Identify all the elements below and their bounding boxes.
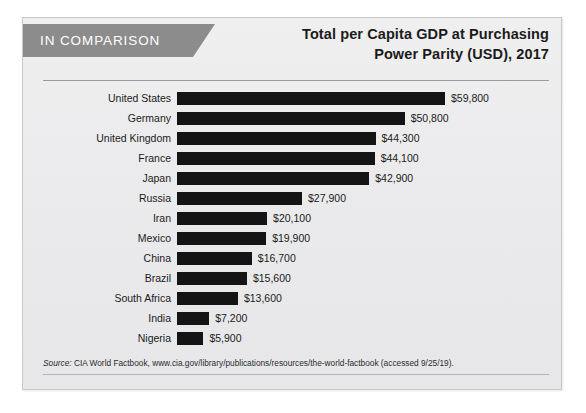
bar	[177, 112, 405, 125]
bar	[177, 292, 238, 305]
bar-value-label: $44,100	[375, 152, 419, 164]
screenshot-root: IN COMPARISON Total per Capita GDP at Pu…	[0, 0, 586, 413]
chart-row: United States$59,800	[23, 88, 563, 108]
bar-value-label: $19,900	[266, 232, 310, 244]
bar	[177, 132, 376, 145]
chart-row: Nigeria$5,900	[23, 328, 563, 348]
category-label: Nigeria	[23, 332, 177, 344]
bar-area: $42,900	[177, 168, 563, 188]
chart-row: Germany$50,800	[23, 108, 563, 128]
bar-area: $27,900	[177, 188, 563, 208]
bar	[177, 332, 203, 345]
source-note: Source: CIA World Factbook, www.cia.gov/…	[43, 358, 549, 368]
chart-row: France$44,100	[23, 148, 563, 168]
bar-value-label: $44,300	[376, 132, 420, 144]
category-label: Iran	[23, 212, 177, 224]
bar-value-label: $7,200	[209, 312, 247, 324]
bar	[177, 172, 369, 185]
bar-value-label: $15,600	[247, 272, 291, 284]
chart-row: Iran$20,100	[23, 208, 563, 228]
bar-area: $59,800	[177, 88, 563, 108]
card-footer: Source: CIA World Factbook, www.cia.gov/…	[43, 358, 549, 375]
category-label: France	[23, 152, 177, 164]
chart-title-line-2: Power Parity (USD), 2017	[229, 44, 549, 64]
category-label: Brazil	[23, 272, 177, 284]
bar	[177, 252, 252, 265]
header-divider	[43, 80, 549, 81]
chart-row: United Kingdom$44,300	[23, 128, 563, 148]
bar-area: $44,100	[177, 148, 563, 168]
bar-value-label: $50,800	[405, 112, 449, 124]
chart-row: China$16,700	[23, 248, 563, 268]
chart-row: South Africa$13,600	[23, 288, 563, 308]
chart-row: India$7,200	[23, 308, 563, 328]
chart-row: Russia$27,900	[23, 188, 563, 208]
bar-value-label: $59,800	[445, 92, 489, 104]
category-label: China	[23, 252, 177, 264]
chart-title: Total per Capita GDP at Purchasing Power…	[229, 24, 549, 64]
bar-area: $15,600	[177, 268, 563, 288]
category-label: South Africa	[23, 292, 177, 304]
bar-value-label: $20,100	[267, 212, 311, 224]
bar-value-label: $16,700	[252, 252, 296, 264]
bar-value-label: $5,900	[203, 332, 241, 344]
chart-title-line-1: Total per Capita GDP at Purchasing	[229, 24, 549, 44]
bar	[177, 312, 209, 325]
bar-value-label: $13,600	[238, 292, 282, 304]
chart-row: Brazil$15,600	[23, 268, 563, 288]
bar	[177, 272, 247, 285]
bar-area: $5,900	[177, 328, 563, 348]
bar-area: $13,600	[177, 288, 563, 308]
comparison-card: IN COMPARISON Total per Capita GDP at Pu…	[22, 17, 562, 390]
category-label: Germany	[23, 112, 177, 124]
bar-area: $44,300	[177, 128, 563, 148]
bar	[177, 92, 445, 105]
bar-area: $50,800	[177, 108, 563, 128]
category-label: India	[23, 312, 177, 324]
bar-value-label: $42,900	[369, 172, 413, 184]
category-label: Japan	[23, 172, 177, 184]
footer-divider	[43, 374, 549, 375]
source-prefix: Source:	[43, 358, 72, 368]
page-bleed-artifact	[60, 396, 480, 408]
bar	[177, 212, 267, 225]
banner-label: IN COMPARISON	[23, 33, 160, 48]
category-label: United Kingdom	[23, 132, 177, 144]
bar-area: $20,100	[177, 208, 563, 228]
chart-row: Japan$42,900	[23, 168, 563, 188]
bar-value-label: $27,900	[302, 192, 346, 204]
in-comparison-banner: IN COMPARISON	[23, 24, 215, 57]
category-label: Russia	[23, 192, 177, 204]
bar-area: $7,200	[177, 308, 563, 328]
bar	[177, 232, 266, 245]
bar-chart: United States$59,800Germany$50,800United…	[23, 88, 563, 354]
bar-area: $16,700	[177, 248, 563, 268]
card-header: IN COMPARISON Total per Capita GDP at Pu…	[23, 18, 563, 80]
category-label: Mexico	[23, 232, 177, 244]
bar	[177, 152, 375, 165]
bar-area: $19,900	[177, 228, 563, 248]
chart-row: Mexico$19,900	[23, 228, 563, 248]
category-label: United States	[23, 92, 177, 104]
source-text: CIA World Factbook, www.cia.gov/library/…	[72, 358, 454, 368]
bar	[177, 192, 302, 205]
